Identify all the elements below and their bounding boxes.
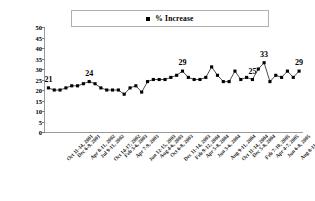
y-axis-tick-mark [42, 38, 45, 39]
chart-container: % Increase 05101520253035404550 21242925… [0, 0, 315, 201]
data-point-marker [228, 80, 231, 83]
data-point-marker [204, 76, 207, 79]
data-point-marker [64, 86, 67, 89]
data-point-marker [70, 84, 73, 87]
data-point-marker [76, 84, 79, 87]
data-point-label: 21 [44, 75, 52, 84]
data-point-marker [82, 82, 85, 85]
data-point-marker [123, 93, 126, 96]
data-point-label: 33 [260, 50, 268, 59]
data-point-marker [99, 86, 102, 89]
data-point-marker [47, 86, 50, 89]
data-point-marker [94, 82, 97, 85]
y-axis-tick-mark [42, 59, 45, 60]
y-axis-tick-mark [42, 111, 45, 112]
data-point-marker [263, 61, 266, 64]
data-point-marker [152, 78, 155, 81]
data-point-marker [163, 78, 166, 81]
y-axis-tick-mark [42, 69, 45, 70]
data-point-label: 25 [248, 67, 256, 76]
data-point-marker [216, 74, 219, 77]
data-point-marker [251, 78, 254, 81]
data-point-marker [268, 80, 271, 83]
data-point-marker [286, 70, 289, 73]
data-point-marker [280, 76, 283, 79]
data-point-marker [146, 80, 149, 83]
plot-area: 05101520253035404550 212429253329 [0, 22, 315, 137]
data-point-marker [181, 70, 184, 73]
data-point-marker [245, 76, 248, 79]
data-point-marker [169, 76, 172, 79]
data-point-marker [111, 88, 114, 91]
data-point-marker [187, 76, 190, 79]
y-axis-tick-mark [42, 101, 45, 102]
data-point-label: 24 [85, 69, 93, 78]
data-point-marker [59, 88, 62, 91]
data-point-marker [105, 88, 108, 91]
data-point-marker [140, 91, 143, 94]
series-line [48, 63, 299, 94]
data-point-label: 29 [178, 58, 186, 67]
legend-marker-icon [146, 17, 150, 21]
data-point-marker [239, 78, 242, 81]
data-point-marker [88, 80, 91, 83]
data-point-marker [210, 65, 213, 68]
y-axis-tick-mark [42, 27, 45, 28]
data-point-label: 29 [295, 58, 303, 67]
y-axis-tick-mark [42, 48, 45, 49]
x-axis-labels: Oct 11-14, 2001Dec 6-9, 2001Apr 8-11, 20… [0, 133, 315, 201]
data-point-marker [233, 70, 236, 73]
data-point-marker [298, 70, 301, 73]
data-point-marker [274, 74, 277, 77]
data-point-marker [292, 76, 295, 79]
data-point-marker [117, 88, 120, 91]
data-point-marker [134, 84, 137, 87]
y-axis-tick-mark [42, 122, 45, 123]
data-point-marker [198, 78, 201, 81]
data-point-marker [257, 67, 260, 70]
data-point-marker [53, 88, 56, 91]
data-point-marker [193, 78, 196, 81]
data-point-marker [128, 86, 131, 89]
data-point-marker [175, 74, 178, 77]
data-point-marker [158, 78, 161, 81]
y-axis-tick-mark [42, 90, 45, 91]
data-point-marker [222, 80, 225, 83]
